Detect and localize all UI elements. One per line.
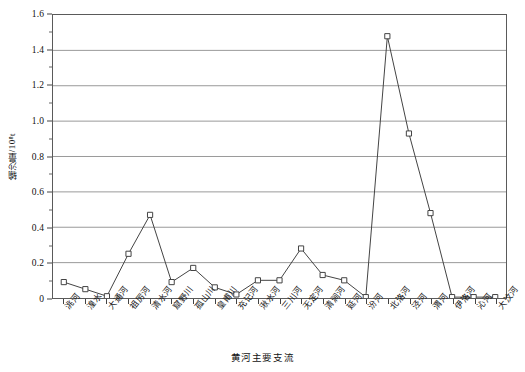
x-axis-title: 黄河主要支流 xyxy=(0,350,525,364)
y-tick-label: 0 xyxy=(39,294,44,304)
y-axis-tick-group: 00.20.40.60.81.01.21.41.6 xyxy=(0,14,52,299)
y-tick-label: 1.4 xyxy=(32,45,44,55)
y-tick-label: 1.0 xyxy=(32,116,44,126)
y-tick-label: 0.4 xyxy=(32,223,44,233)
chart-root: 输沙量/10⁸t 00.20.40.60.81.01.21.41.6 洮河湟水大… xyxy=(0,0,525,372)
plot-area xyxy=(52,14,507,299)
data-series-line xyxy=(53,15,506,298)
y-tick-label: 1.6 xyxy=(32,9,44,19)
y-tick-label: 0.8 xyxy=(32,152,44,162)
y-tick-label: 1.2 xyxy=(32,80,44,90)
y-tick-label: 0.6 xyxy=(32,187,44,197)
x-axis-label-group: 洮河湟水大通河祖厉河清水河窟野川孤山川皇甫川充记河湫水河三川河无定河清涧河延河汾… xyxy=(52,304,507,350)
y-tick-label: 0.2 xyxy=(32,258,44,268)
